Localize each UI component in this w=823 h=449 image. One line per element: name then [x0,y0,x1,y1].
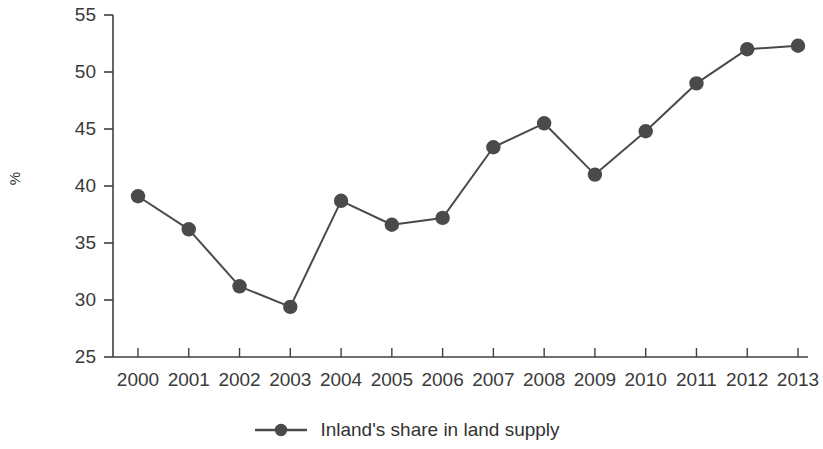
y-axis-ticks [104,15,113,357]
data-point-marker[interactable] [334,194,348,208]
data-point-marker[interactable] [435,211,449,225]
legend-item-inlands-share[interactable]: Inland's share in land supply [253,420,559,439]
data-point-marker[interactable] [131,189,145,203]
data-point-marker[interactable] [232,279,246,293]
axis-lines [113,15,808,357]
x-axis-tick-label-group: 2000200120022003200420052006200720082009… [0,370,813,400]
data-point-marker[interactable] [283,300,297,314]
x-axis-ticks [138,348,798,357]
legend-line-circle-marker-icon [253,421,309,439]
data-point-marker[interactable] [588,167,602,181]
data-point-marker[interactable] [638,124,652,138]
data-point-marker[interactable] [486,140,500,154]
data-point-marker[interactable] [182,222,196,236]
data-point-marker[interactable] [740,42,754,56]
data-point-marker[interactable] [791,39,805,53]
x-axis-tick-label: 2013 [763,370,823,389]
data-point-marker[interactable] [689,76,703,90]
chart-legend: Inland's share in land supply [0,420,813,439]
data-point-marker[interactable] [385,218,399,232]
data-point-marker[interactable] [537,116,551,130]
data-series-markers [131,39,805,314]
legend-item-label: Inland's share in land supply [320,420,559,439]
